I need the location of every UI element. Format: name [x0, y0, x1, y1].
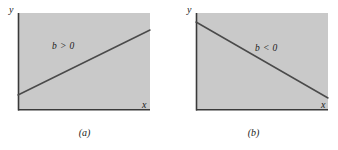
axis-label-x-b: x — [321, 100, 325, 110]
panel-b: y x b < 0 (b) — [169, 0, 338, 150]
axis-label-y-a: y — [9, 5, 13, 15]
axis-label-x-a: x — [142, 100, 146, 110]
plot-background-b — [196, 13, 328, 110]
annotation-slope-a: b > 0 — [52, 42, 75, 52]
plot-background-a — [18, 13, 150, 110]
figure-container: y x b > 0 (a) y x b < 0 (b) — [0, 0, 338, 150]
axis-label-y-b: y — [187, 5, 191, 15]
panel-a: y x b > 0 (a) — [0, 0, 169, 150]
caption-a: (a) — [0, 128, 169, 138]
annotation-slope-b: b < 0 — [255, 44, 278, 54]
plot-area-b — [169, 0, 338, 120]
caption-b: (b) — [169, 128, 338, 138]
